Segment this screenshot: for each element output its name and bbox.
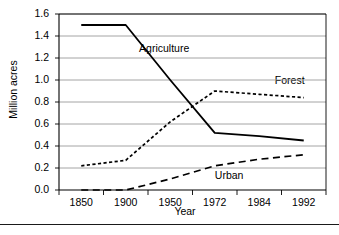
bottom-divider	[0, 224, 339, 225]
series-line-agriculture	[81, 25, 304, 141]
plot-area	[0, 0, 339, 235]
grid-lines	[59, 14, 326, 168]
chart-figure: Million acres Year 0.00.20.40.60.81.01.2…	[0, 0, 339, 235]
data-series	[81, 25, 304, 190]
series-line-urban	[81, 155, 304, 190]
